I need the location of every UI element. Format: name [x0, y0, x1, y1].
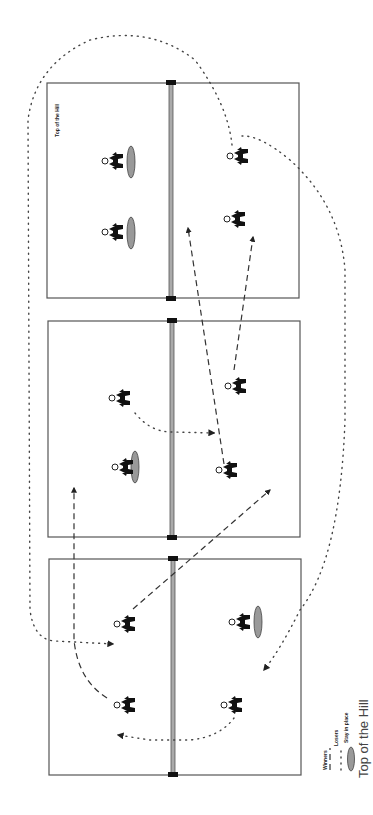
- legend-losers: Losers: [333, 729, 341, 770]
- court-1: [47, 80, 299, 301]
- svg-text:Stay in place: Stay in place: [343, 712, 349, 743]
- svg-text:Winners: Winners: [322, 750, 328, 770]
- legend: Winners Losers Stay in place: [322, 712, 355, 771]
- court-3: [49, 556, 301, 777]
- caption: Top of the Hill: [356, 699, 371, 778]
- court-label: Top of the Hill: [54, 103, 60, 137]
- loser-paths: [28, 36, 345, 741]
- court-2: [48, 318, 300, 540]
- svg-text:Losers: Losers: [333, 729, 339, 746]
- legend-stay: Stay in place: [343, 712, 355, 771]
- legend-winners: Winners: [322, 748, 330, 770]
- top-of-the-hill-diagram: Top of the Hill: [0, 0, 373, 815]
- players: [102, 147, 250, 714]
